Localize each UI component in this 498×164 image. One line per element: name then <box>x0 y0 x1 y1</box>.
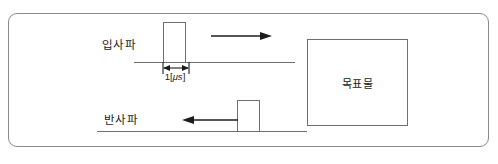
pulse-width-label: 1[μs] <box>156 71 194 82</box>
target-object-label: 목표물 <box>308 75 407 91</box>
pulse-width-unit: μs <box>173 71 183 82</box>
incident-direction-arrow-icon <box>208 28 274 44</box>
reflected-wave-label: 반사파 <box>104 111 138 127</box>
incident-pulse <box>163 22 186 63</box>
incident-wave-label: 입사파 <box>102 36 136 52</box>
pulse-echo-diagram: 입사파 1[μs] 반사파 목표물 <box>0 0 498 164</box>
reflected-direction-arrow-icon <box>180 112 240 128</box>
incident-baseline <box>134 62 295 63</box>
pulse-width-bracket: ] <box>183 71 186 82</box>
reflected-baseline <box>97 131 307 132</box>
reflected-pulse <box>237 100 260 132</box>
pulse-width-value: 1[ <box>165 71 173 82</box>
target-object-box: 목표물 <box>307 39 408 126</box>
